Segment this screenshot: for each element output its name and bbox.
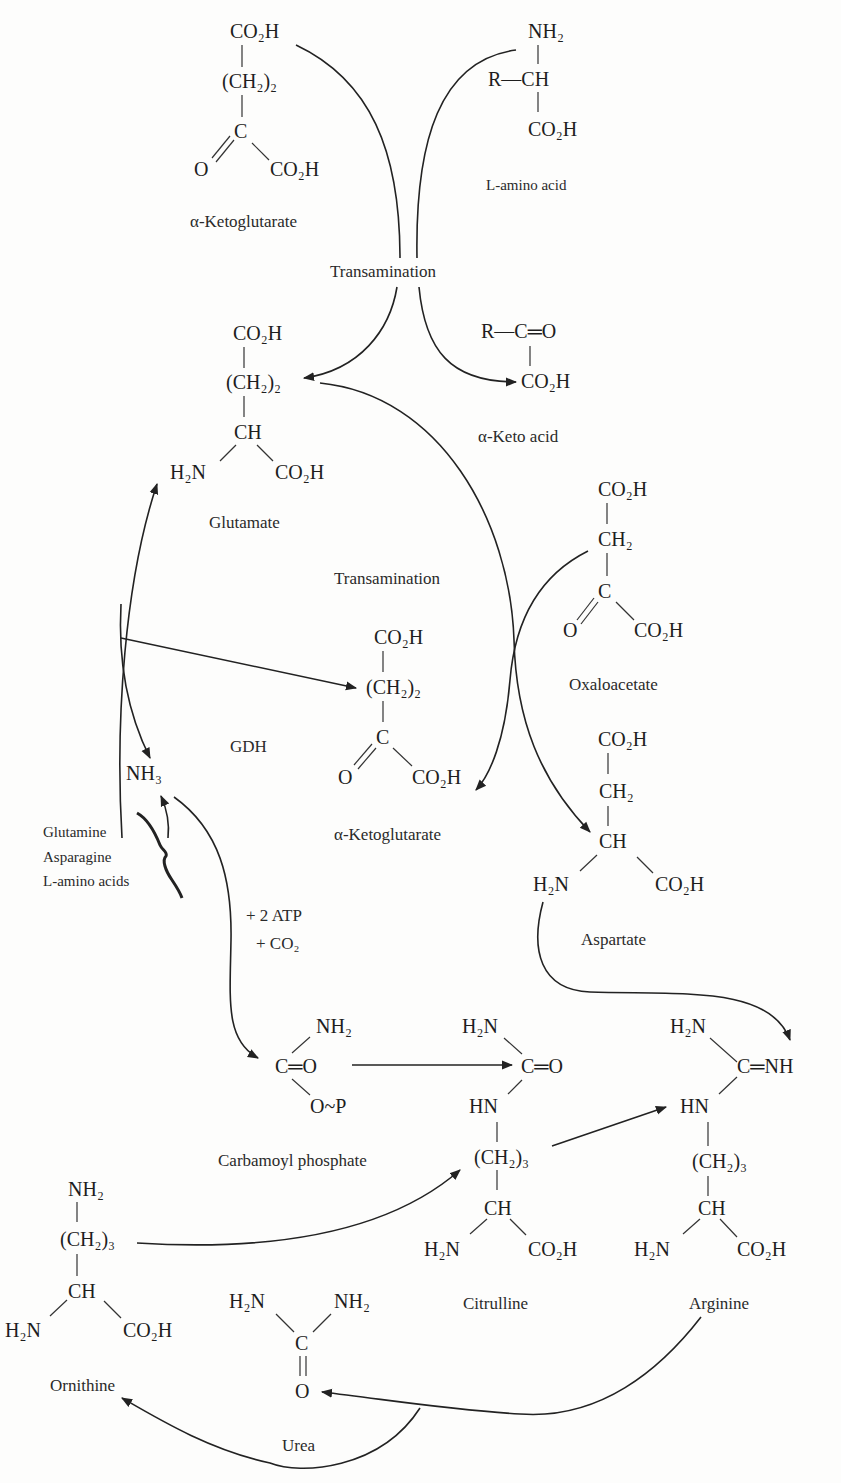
oaa-co2h: CO₂H — [598, 478, 647, 500]
glu-ch2: (CH₂)₂ — [226, 371, 281, 394]
keto-co2h: CO₂H — [521, 370, 570, 392]
brace-icon — [137, 813, 182, 898]
aa-rch: R—CH — [488, 68, 549, 90]
cit-co2h: CO₂H — [528, 1238, 577, 1260]
molecule-oxaloacetate: CO₂H CH₂ C O CO₂H Oxaloacetate — [563, 478, 683, 694]
arg-hn: HN — [680, 1095, 709, 1117]
molecule-l-amino-acid: NH₂ R—CH CO₂H L-amino acid — [486, 20, 577, 193]
akg-mid-co2h-2: CO₂H — [412, 766, 461, 788]
oaa-o: O — [563, 619, 577, 641]
cp-op: O~P — [310, 1095, 346, 1117]
cit-co: C═O — [521, 1055, 563, 1077]
glu-h2n: H₂N — [170, 461, 206, 483]
arg-h2n: H₂N — [670, 1015, 706, 1037]
molecule-glutamate: CO₂H (CH₂)₂ CH H₂N CO₂H Glutamate — [170, 322, 324, 532]
arrow-glutamate-to-aspartate — [320, 383, 590, 832]
urea-o: O — [295, 1380, 309, 1402]
akg-top-co2h: CO₂H — [230, 20, 279, 42]
urea-label: Urea — [282, 1436, 315, 1455]
arrow-citrulline-to-arginine — [552, 1107, 666, 1146]
cofactor-co2: + CO₂ — [256, 934, 299, 953]
cit-h2n: H₂N — [462, 1015, 498, 1037]
asp-ch: CH — [599, 830, 627, 852]
urea-cycle-diagram: CO₂H (CH₂)₂ C O CO₂H α-Ketoglutarate NH₂… — [0, 0, 841, 1483]
cit-h2n-2: H₂N — [424, 1238, 460, 1260]
arrow-oxaloacetate-to-akg — [476, 551, 588, 790]
asp-label: Aspartate — [581, 930, 646, 949]
orn-ch: CH — [68, 1280, 96, 1302]
glu-label: Glutamate — [209, 513, 280, 532]
source-asparagine: Asparagine — [43, 849, 112, 865]
arg-label: Arginine — [689, 1294, 749, 1313]
aa-co2h: CO₂H — [528, 118, 577, 140]
molecule-alpha-ketoglutarate-top: CO₂H (CH₂)₂ C O CO₂H α-Ketoglutarate — [190, 20, 319, 231]
oaa-ch2: CH₂ — [598, 528, 633, 550]
arrow-gdh-to-glutamate — [120, 484, 157, 838]
urea-nh2: NH₂ — [334, 1290, 370, 1312]
asp-co2h: CO₂H — [598, 728, 647, 750]
orn-co2h: CO₂H — [123, 1319, 172, 1341]
molecule-citrulline: H₂N C═O HN (CH₂)₃ CH H₂N CO₂H Citrulline — [424, 1015, 577, 1313]
asp-co2h-2: CO₂H — [655, 873, 704, 895]
akg-top-ch2: (CH₂)₂ — [222, 70, 277, 93]
akg-mid-o: O — [338, 766, 352, 788]
arg-cnh: C═NH — [737, 1055, 793, 1077]
arrow-gdh-to-akg — [121, 638, 356, 688]
asp-h2n: H₂N — [533, 873, 569, 895]
oaa-label: Oxaloacetate — [569, 675, 658, 694]
molecule-alpha-keto-acid: R—C═O CO₂H α-Keto acid — [478, 320, 570, 446]
molecule-arginine: H₂N C═NH HN (CH₂)₃ CH H₂N CO₂H Arginine — [634, 1015, 793, 1313]
arg-h2n-2: H₂N — [634, 1238, 670, 1260]
source-l-amino-acids: L-amino acids — [43, 873, 129, 889]
arrow-to-ornithine — [122, 1398, 420, 1468]
molecule-alpha-ketoglutarate-mid: CO₂H (CH₂)₂ C O CO₂H α-Ketoglutarate — [334, 626, 461, 844]
arrow-nh3-to-carbamoyl — [174, 797, 258, 1058]
cp-co: C═O — [275, 1055, 317, 1077]
cit-hn: HN — [469, 1095, 498, 1117]
keto-label: α-Keto acid — [478, 427, 559, 446]
cofactor-atp: + 2 ATP — [246, 906, 302, 925]
orn-h2n: H₂N — [5, 1319, 41, 1341]
aa-nh2: NH₂ — [528, 20, 564, 42]
urea-h2n: H₂N — [229, 1290, 265, 1312]
transamination-top-label: Transamination — [330, 262, 437, 281]
nh3: NH₃ — [126, 762, 162, 784]
cit-ch: CH — [484, 1197, 512, 1219]
arrow-arginine-to-urea — [322, 1317, 701, 1414]
akg-top-o: O — [194, 158, 208, 180]
molecule-aspartate: CO₂H CH₂ CH H₂N CO₂H Aspartate — [533, 728, 704, 949]
aa-label: L-amino acid — [486, 177, 567, 193]
source-glutamine: Glutamine — [43, 824, 107, 840]
arg-co2h: CO₂H — [737, 1238, 786, 1260]
glu-co2h: CO₂H — [233, 322, 282, 344]
arrow-ornithine-to-citrulline — [137, 1170, 460, 1245]
akg-mid-ch2: (CH₂)₂ — [366, 676, 421, 699]
arrow-to-glutamate — [304, 287, 397, 378]
transamination-mid-label: Transamination — [334, 569, 441, 588]
glu-ch: CH — [234, 421, 262, 443]
oaa-c: C — [598, 580, 611, 602]
cit-ch2: (CH₂)₃ — [474, 1146, 529, 1169]
cit-label: Citrulline — [463, 1294, 528, 1313]
gdh-label: GDH — [230, 737, 267, 756]
orn-label: Ornithine — [50, 1376, 115, 1395]
akg-mid-co2h: CO₂H — [374, 626, 423, 648]
cp-nh2: NH₂ — [316, 1015, 352, 1037]
molecule-carbamoyl-phosphate: NH₂ C═O O~P Carbamoyl phosphate — [218, 1015, 367, 1170]
orn-ch2: (CH₂)₃ — [60, 1228, 115, 1251]
arrow-glutamate-to-nh3 — [120, 604, 150, 758]
oaa-co2h-2: CO₂H — [634, 619, 683, 641]
urea-c: C — [295, 1332, 308, 1354]
arrow-sources-to-nh3 — [161, 796, 168, 838]
arg-ch: CH — [698, 1197, 726, 1219]
akg-top-label: α-Ketoglutarate — [190, 212, 297, 231]
cp-label: Carbamoyl phosphate — [218, 1151, 367, 1170]
akg-top-co2h-2: CO₂H — [270, 158, 319, 180]
orn-nh2: NH₂ — [68, 1178, 104, 1200]
molecule-urea: H₂N NH₂ C O Urea — [229, 1290, 370, 1455]
akg-mid-label: α-Ketoglutarate — [334, 825, 441, 844]
nh3-sources: Glutamine Asparagine L-amino acids — [43, 796, 182, 898]
glu-co2h-2: CO₂H — [275, 461, 324, 483]
akg-mid-c: C — [376, 726, 389, 748]
asp-ch2: CH₂ — [599, 780, 634, 802]
